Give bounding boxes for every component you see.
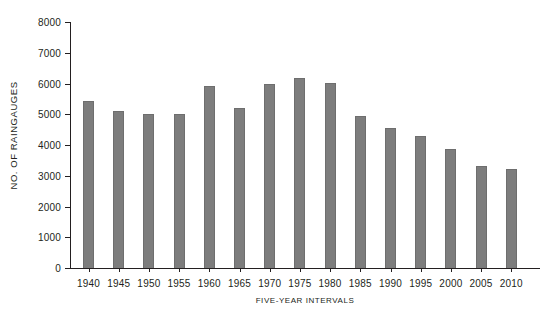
bar bbox=[234, 108, 245, 268]
y-axis-tick bbox=[65, 114, 70, 115]
x-axis-tick-label: 1955 bbox=[168, 278, 191, 289]
bar bbox=[385, 128, 396, 268]
bar bbox=[264, 84, 275, 269]
y-axis-tick bbox=[65, 207, 70, 208]
x-axis-tick bbox=[149, 268, 150, 272]
bar bbox=[415, 136, 426, 268]
bar bbox=[83, 101, 94, 268]
bar bbox=[445, 149, 456, 268]
x-axis-tick bbox=[89, 268, 90, 272]
x-axis-tick-label: 1965 bbox=[228, 278, 251, 289]
x-axis-tick bbox=[481, 268, 482, 272]
x-axis-tick bbox=[240, 268, 241, 272]
y-axis-tick bbox=[65, 22, 70, 23]
y-axis-tick-label: 3000 bbox=[38, 170, 61, 181]
x-axis-tick-label: 1990 bbox=[379, 278, 402, 289]
x-axis-tick-label: 1945 bbox=[107, 278, 130, 289]
y-axis-tick-label: 7000 bbox=[38, 47, 61, 58]
bar bbox=[113, 111, 124, 268]
x-axis-tick-label: 1970 bbox=[258, 278, 281, 289]
bar-chart: NO. OF RAINGAUGES 0100020003000400050006… bbox=[0, 0, 554, 324]
y-axis-tick-label: 6000 bbox=[38, 78, 61, 89]
x-axis-tick bbox=[179, 268, 180, 272]
x-axis-tick bbox=[330, 268, 331, 272]
bar bbox=[174, 114, 185, 268]
x-axis-tick bbox=[360, 268, 361, 272]
x-axis-tick-label: 1940 bbox=[77, 278, 100, 289]
y-axis-tick-label: 2000 bbox=[38, 201, 61, 212]
x-axis-tick bbox=[391, 268, 392, 272]
x-axis-tick bbox=[270, 268, 271, 272]
bar bbox=[325, 83, 336, 268]
x-axis-tick-label: 1960 bbox=[198, 278, 221, 289]
x-axis-tick-label: 1995 bbox=[409, 278, 432, 289]
x-axis-title: FIVE-YEAR INTERVALS bbox=[70, 296, 540, 305]
x-axis-tick-label: 1980 bbox=[319, 278, 342, 289]
x-axis-tick-label: 2005 bbox=[470, 278, 493, 289]
x-axis-line bbox=[70, 268, 540, 269]
x-axis-tick-label: 2010 bbox=[500, 278, 523, 289]
bar bbox=[476, 166, 487, 268]
y-axis-title-label: NO. OF RAINGAUGES bbox=[8, 81, 19, 189]
y-axis-tick-label: 8000 bbox=[38, 17, 61, 28]
bar bbox=[294, 78, 305, 268]
y-axis-tick-label: 4000 bbox=[38, 140, 61, 151]
x-axis-tick bbox=[209, 268, 210, 272]
y-axis-tick-label: 1000 bbox=[38, 232, 61, 243]
y-axis-title: NO. OF RAINGAUGES bbox=[0, 0, 26, 270]
x-axis-tick-label: 2000 bbox=[439, 278, 462, 289]
bar bbox=[355, 116, 366, 268]
x-axis-tick bbox=[119, 268, 120, 272]
x-axis-tick-label: 1950 bbox=[137, 278, 160, 289]
y-axis-line bbox=[70, 22, 71, 269]
bar bbox=[204, 86, 215, 268]
x-axis-tick bbox=[511, 268, 512, 272]
y-axis-tick bbox=[65, 237, 70, 238]
y-axis-tick bbox=[65, 176, 70, 177]
plot-area: 010002000300040005000600070008000 194019… bbox=[70, 22, 540, 268]
y-axis-tick-label: 0 bbox=[55, 263, 61, 274]
bar bbox=[143, 114, 154, 268]
x-axis-tick bbox=[451, 268, 452, 272]
y-axis-tick-label: 5000 bbox=[38, 109, 61, 120]
x-axis-tick-label: 1985 bbox=[349, 278, 372, 289]
x-axis-tick-label: 1975 bbox=[288, 278, 311, 289]
x-axis-tick bbox=[300, 268, 301, 272]
y-axis-tick bbox=[65, 268, 70, 269]
y-axis-tick bbox=[65, 84, 70, 85]
y-axis-tick bbox=[65, 145, 70, 146]
bar bbox=[506, 169, 517, 268]
x-axis-tick bbox=[421, 268, 422, 272]
y-axis-tick bbox=[65, 53, 70, 54]
